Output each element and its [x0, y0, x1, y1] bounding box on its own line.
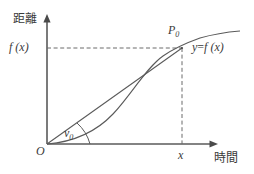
point-p0-marker — [181, 47, 183, 49]
distance-time-graph-figure: 距離 時間 f (x) x O P0 y=f (x) v0 — [0, 0, 254, 174]
y-axis-arrow-icon — [43, 14, 50, 23]
angle-v0-label: v0 — [64, 127, 73, 143]
curve-equation-label: y=f (x) — [192, 41, 224, 53]
point-p0-label: P0 — [168, 24, 179, 40]
curve-equation-rhs: f (x) — [204, 40, 224, 54]
x-axis-arrow-icon — [210, 140, 219, 147]
angle-arc — [77, 123, 90, 144]
x-axis-tick-label-x: x — [178, 149, 183, 161]
y-axis-tick-label-fx: f (x) — [9, 41, 29, 53]
y-axis-title: 距離 — [13, 13, 37, 25]
point-p0-subscript: 0 — [175, 30, 179, 39]
x-axis-title: 時間 — [214, 152, 238, 164]
origin-label: O — [36, 145, 45, 157]
angle-v0-subscript: 0 — [69, 133, 73, 142]
